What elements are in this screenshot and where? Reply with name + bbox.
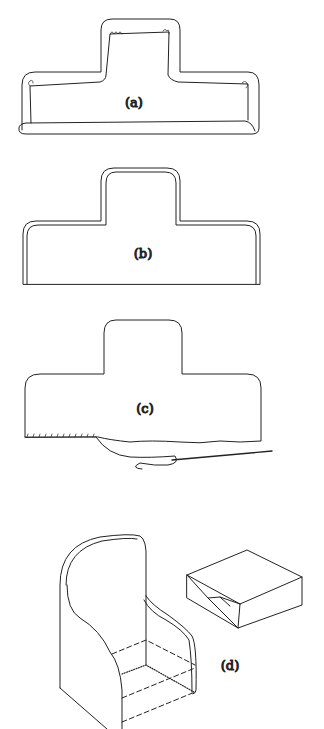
chair-seat-seam (122, 665, 194, 692)
chair-side (67, 585, 122, 729)
figure-a-gather-marks (29, 30, 248, 89)
figure-c-outline (25, 320, 261, 443)
chair-back-double-edge (66, 538, 137, 585)
figure-b-inner (27, 172, 256, 284)
figure-c: (c) (25, 320, 272, 469)
cushion-box-fold (187, 575, 240, 628)
figure-d: (d) (60, 535, 302, 729)
figure-b-outer (23, 168, 260, 284)
chair-arm-double-edge (144, 600, 192, 692)
needle-icon (172, 451, 272, 460)
figure-a-outline (19, 19, 259, 134)
figure-b-label: (b) (134, 246, 152, 261)
chair-front-left (60, 688, 107, 729)
figure-a: (a) (19, 19, 259, 134)
figure-c-label: (c) (136, 401, 153, 416)
diagram-canvas: (a) (b) (c) (d) (0, 0, 324, 729)
chair-dashed-seat (112, 640, 195, 722)
figure-b: (b) (23, 168, 260, 284)
figure-a-label: (a) (125, 95, 143, 110)
figure-d-label: (d) (221, 658, 239, 673)
cushion-box (187, 550, 302, 628)
